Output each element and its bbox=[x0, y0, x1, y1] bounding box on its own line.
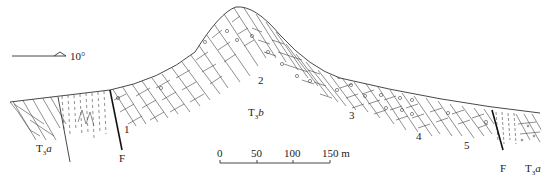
scale-tick-100: 100 bbox=[284, 147, 301, 159]
fault-left-label: F bbox=[119, 152, 125, 164]
bed-label-4: 4 bbox=[416, 130, 422, 142]
formation-label-t3a-right: T3a bbox=[525, 162, 541, 177]
fault-right-label: F bbox=[500, 162, 506, 174]
formation-label-t3a-left: T3a bbox=[36, 142, 52, 157]
fossil-markers bbox=[116, 29, 487, 123]
t3a-right-pattern bbox=[496, 112, 546, 144]
bed-label-5: 5 bbox=[464, 139, 470, 151]
scale-tick-50: 50 bbox=[251, 147, 263, 159]
bed-label-2: 2 bbox=[258, 74, 264, 86]
bed-label-1: 1 bbox=[124, 123, 130, 135]
surface-profile bbox=[10, 7, 540, 113]
strata-hatching bbox=[12, 8, 546, 144]
t3b-brick-crosslines bbox=[114, 16, 488, 128]
bed-label-3: 3 bbox=[349, 109, 355, 121]
t3a-left-pattern bbox=[12, 91, 106, 140]
t3b-bedding-lines bbox=[112, 8, 494, 138]
scale-tick-0: 0 bbox=[217, 147, 223, 159]
formation-label-t3b: T3b bbox=[248, 106, 264, 121]
dip-arrow-icon bbox=[12, 52, 66, 56]
fault-right-line bbox=[492, 110, 503, 150]
dip-angle-label: 10° bbox=[70, 50, 85, 62]
scale-tick-150: 150 m bbox=[322, 147, 350, 159]
t3a-left-contact bbox=[58, 97, 70, 162]
cross-section-diagram: 10° bbox=[0, 0, 552, 183]
scale-bar: 0 50 100 150 m bbox=[217, 147, 350, 163]
